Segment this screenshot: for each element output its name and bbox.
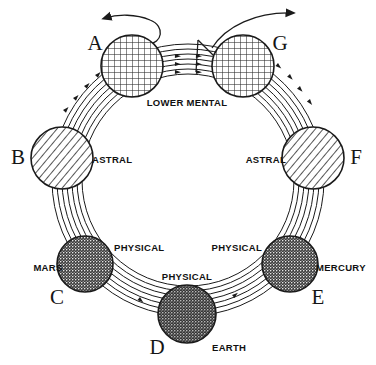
label-planet-earth: EARTH — [212, 342, 246, 353]
globe-g[interactable] — [212, 35, 274, 97]
globe-c[interactable] — [57, 236, 113, 292]
globe-letter-b: B — [11, 145, 25, 169]
label-physical-bottom: PHYSICAL — [162, 271, 212, 282]
label-planet-mercury: MERCURY — [316, 262, 366, 273]
label-astral-left: ASTRAL — [92, 154, 132, 165]
globe-letter-a: A — [87, 31, 103, 55]
diagram-canvas: A B C D E F G LOWER MENTAL ASTRAL ASTRAL… — [0, 0, 376, 365]
label-astral-right: ASTRAL — [246, 154, 286, 165]
globe-f[interactable] — [282, 127, 344, 189]
globe-a[interactable] — [101, 35, 163, 97]
globe-b[interactable] — [31, 127, 93, 189]
planetary-chain-diagram: A B C D E F G LOWER MENTAL ASTRAL ASTRAL… — [0, 0, 376, 365]
globe-letter-d: D — [149, 335, 164, 359]
label-physical-left: PHYSICAL — [114, 242, 164, 253]
label-physical-right: PHYSICAL — [212, 242, 262, 253]
label-planet-mars: MARS — [33, 262, 62, 273]
globe-letter-e: E — [312, 285, 325, 309]
globe-letter-c: C — [50, 285, 64, 309]
globe-d[interactable] — [158, 285, 216, 343]
globe-e[interactable] — [262, 236, 318, 292]
globe-letter-f: F — [350, 145, 362, 169]
globe-letter-g: G — [272, 31, 287, 55]
label-lower-mental: LOWER MENTAL — [147, 97, 227, 108]
